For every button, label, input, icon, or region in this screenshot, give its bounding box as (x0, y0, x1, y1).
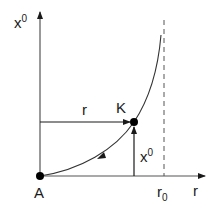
x0-arrow-label: x0 (140, 147, 154, 165)
point-a-label: A (34, 184, 44, 201)
diagram-canvas: x0 r K x0 A r0 r (0, 0, 213, 213)
diagram-svg: x0 r K x0 A r0 r (0, 0, 213, 213)
r-arrow-label: r (82, 101, 87, 118)
asymptote-label: r0 (157, 183, 168, 203)
horizontal-axis-label: r (193, 182, 198, 199)
point-k-label: K (116, 99, 126, 116)
point-a (36, 172, 44, 180)
vertical-axis-label: x0 (14, 13, 28, 31)
point-k (130, 118, 138, 126)
